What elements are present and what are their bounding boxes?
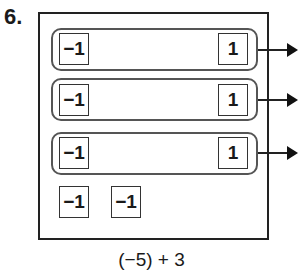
positive-tile: 1 bbox=[218, 137, 248, 169]
negative-tile: −1 bbox=[59, 84, 89, 116]
arrow-right-icon bbox=[258, 99, 296, 101]
positive-tile: 1 bbox=[218, 84, 248, 116]
positive-tile: 1 bbox=[218, 33, 248, 65]
negative-tile: −1 bbox=[59, 33, 89, 65]
negative-tile: −1 bbox=[59, 137, 89, 169]
expression-caption: (−5) + 3 bbox=[0, 249, 303, 271]
arrow-right-icon bbox=[258, 49, 296, 51]
leftover-negative-tile: −1 bbox=[59, 186, 89, 218]
arrow-right-icon bbox=[258, 152, 296, 154]
problem-number: 6. bbox=[4, 4, 22, 30]
leftover-negative-tile: −1 bbox=[111, 186, 141, 218]
